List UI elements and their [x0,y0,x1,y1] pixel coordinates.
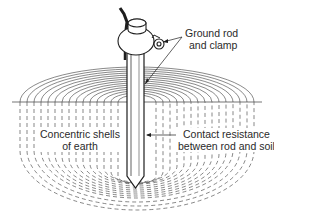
ground-rod-clamp-line2: and clamp [185,39,238,51]
concentric-shells-label: Concentric shells of earth [38,128,122,152]
ground-rod-clamp-line1: Ground rod [185,27,238,39]
contact-resistance-line2: between rod and soil [178,140,274,152]
contact-resistance-line1: Contact resistance [178,128,274,140]
arrowheads [145,39,168,137]
clamp [118,8,164,60]
ground-rod [127,50,144,188]
concentric-shells-line2: of earth [40,140,120,152]
contact-resistance-label: Contact resistance between rod and soil [176,128,274,152]
leader-lines [145,37,182,135]
ground-rod-clamp-label: Ground rod and clamp [185,27,238,51]
concentric-shells-line1: Concentric shells [40,128,120,140]
